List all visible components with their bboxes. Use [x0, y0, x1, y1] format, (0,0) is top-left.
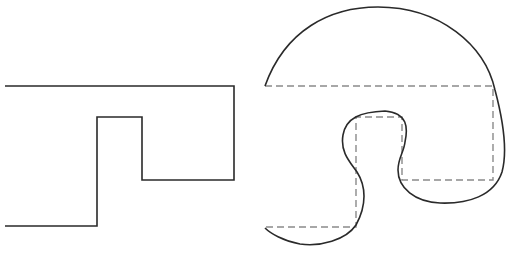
diagram-canvas — [0, 0, 510, 256]
right-dashed-guide — [265, 86, 493, 227]
left-rectilinear-outline — [5, 86, 234, 226]
right-curved-outline — [265, 7, 505, 245]
